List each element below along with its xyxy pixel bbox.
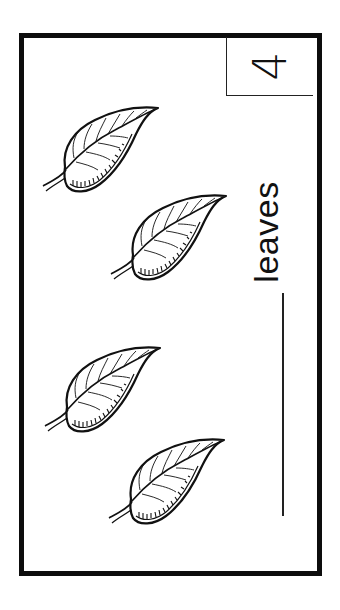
leaf-icon <box>40 100 165 200</box>
leaf-icon <box>42 340 167 440</box>
number-box: 4 <box>226 37 313 96</box>
answer-blank-line[interactable] <box>282 293 284 516</box>
number-container: 4 <box>227 37 313 95</box>
leaf-icon <box>108 188 233 288</box>
leaf-icon <box>106 432 231 532</box>
item-label: leaves <box>249 181 283 282</box>
count-number: 4 <box>247 51 293 80</box>
